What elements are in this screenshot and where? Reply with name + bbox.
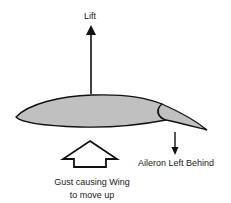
aileron — [158, 104, 207, 130]
wing-diagram — [0, 0, 231, 203]
wing-airfoil — [16, 95, 166, 127]
aileron-down-arrow — [172, 132, 179, 155]
gust-label-line1: Gust causing Wing — [48, 176, 136, 189]
gust-arrow — [63, 141, 117, 167]
aileron-label: Aileron Left Behind — [138, 159, 214, 168]
lift-label: Lift — [84, 12, 96, 21]
gust-label: Gust causing Wing to move up — [48, 176, 136, 202]
gust-label-line2: to move up — [48, 189, 136, 202]
lift-arrow — [86, 25, 96, 94]
